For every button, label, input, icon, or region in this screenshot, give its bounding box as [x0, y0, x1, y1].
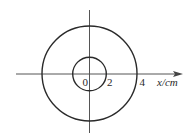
- tick-label-2: 2: [107, 76, 113, 88]
- tick-label-4: 4: [140, 76, 146, 88]
- diagram-canvas: 0 2 4 x/cm: [0, 0, 191, 140]
- axis-label: x/cm: [156, 76, 178, 88]
- diagram-svg: 0 2 4 x/cm: [0, 0, 191, 140]
- tick-label-0: 0: [83, 76, 89, 88]
